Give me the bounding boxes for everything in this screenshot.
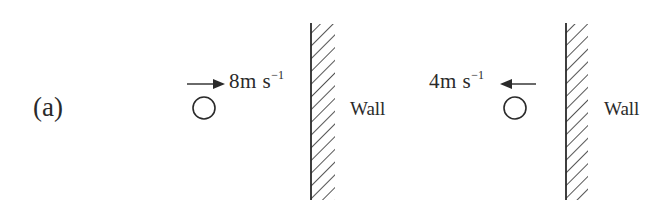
velocity-arrow-right-icon: [187, 79, 225, 89]
wall-label-left: Wall: [350, 98, 385, 120]
speed-exponent: −1: [271, 68, 284, 82]
speed-label-after: 4m s−1: [429, 69, 484, 94]
speed-value: 8: [229, 69, 240, 93]
ball-before: [193, 97, 215, 119]
speed-value: 4: [429, 69, 440, 93]
velocity-arrow-left-icon: [500, 79, 536, 89]
wall-left-hatched: [311, 23, 335, 200]
speed-exponent: −1: [471, 68, 484, 82]
part-label: (a): [33, 92, 63, 123]
wall-right-hatched: [566, 23, 588, 200]
collision-diagram: [0, 0, 672, 218]
speed-unit: m s: [240, 69, 271, 93]
wall-label-right: Wall: [604, 98, 639, 120]
speed-label-before: 8m s−1: [229, 69, 284, 94]
speed-unit: m s: [440, 69, 471, 93]
ball-after: [504, 97, 526, 119]
